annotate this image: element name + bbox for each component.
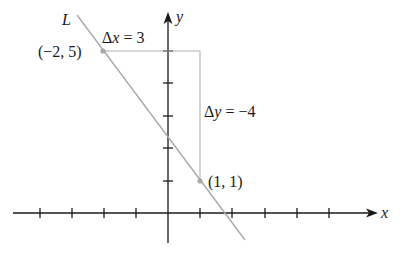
slope-guides [103,51,200,181]
delta-y-symbol: Δ [204,103,214,120]
point-label-1: (−2, 5) [38,43,82,61]
point-marker-1 [100,48,105,53]
delta-y-eq: = −4 [221,103,255,120]
delta-x-eq: = 3 [119,29,144,46]
y-axis: y [163,8,184,243]
point-marker-2 [197,178,202,183]
line-label: L [61,11,71,28]
x-axis: x [13,204,388,221]
point-label-2: (1, 1) [208,173,243,191]
x-axis-label: x [380,204,388,221]
delta-y-annotation: Δy = −4 [204,103,255,121]
delta-x-var: x [111,29,119,46]
delta-x-symbol: Δ [102,29,112,46]
y-axis-label: y [174,8,184,26]
coordinate-diagram: x y L (−2, 5) (1, 1) Δx = 3 Δy = −4 [0,0,418,264]
delta-x-annotation: Δx = 3 [102,29,144,46]
